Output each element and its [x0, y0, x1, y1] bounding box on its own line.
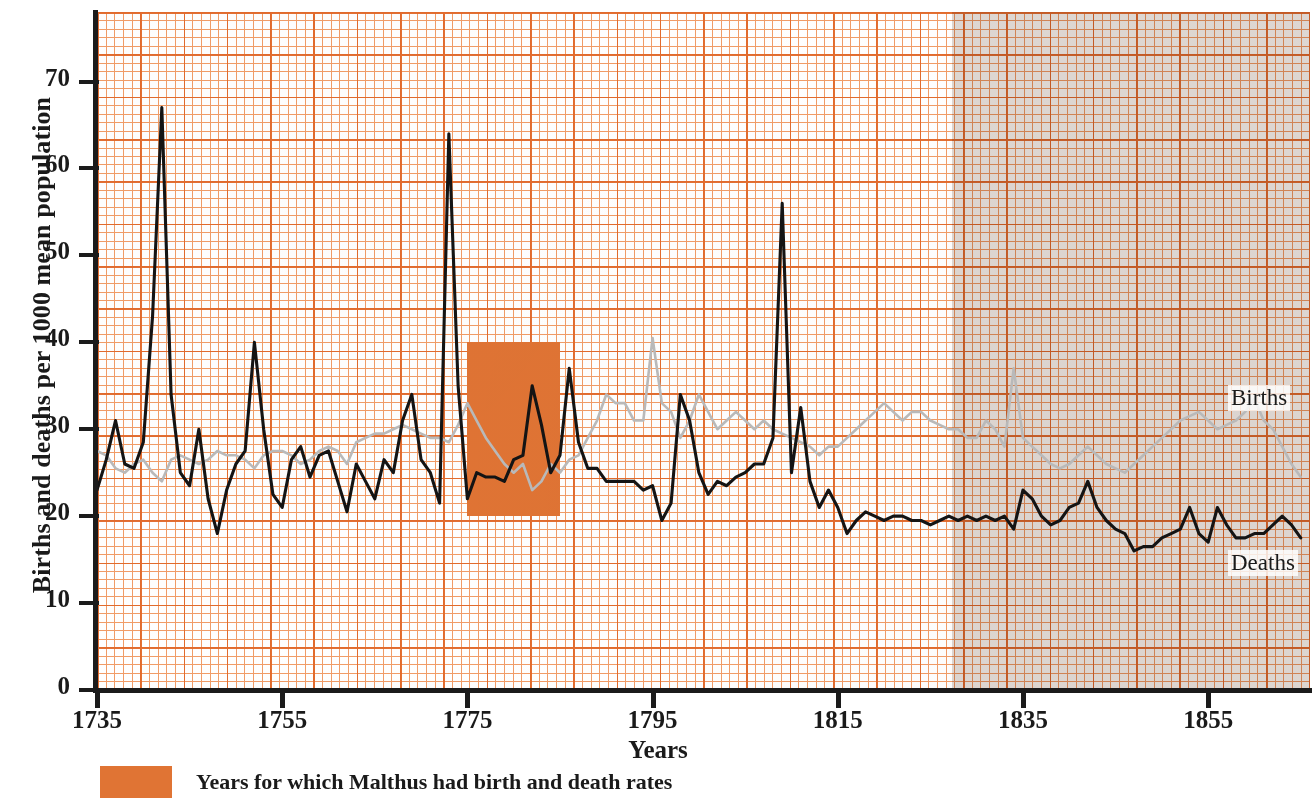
y-tick-20: [79, 514, 99, 518]
y-tick-label-60: 60: [12, 150, 70, 178]
x-tick-label-1815: 1815: [773, 706, 903, 734]
x-tick-label-1835: 1835: [958, 706, 1088, 734]
x-tick-label-1755: 1755: [217, 706, 347, 734]
y-tick-label-30: 30: [12, 411, 70, 439]
plot-area: [97, 12, 1310, 690]
x-tick-label-1795: 1795: [588, 706, 718, 734]
y-tick-label-40: 40: [12, 324, 70, 352]
births-series-label: Births: [1228, 385, 1290, 411]
y-tick-40: [79, 340, 99, 344]
x-tick-label-1775: 1775: [402, 706, 532, 734]
y-tick-label-50: 50: [12, 237, 70, 265]
deaths-series-label: Deaths: [1228, 550, 1298, 576]
y-axis-tick-labels: 010203040506070: [8, 0, 70, 700]
y-tick-label-10: 10: [12, 585, 70, 613]
deaths-line: [97, 108, 1301, 551]
y-tick-label-70: 70: [12, 64, 70, 92]
legend-color-swatch: [100, 766, 172, 798]
series-container: [97, 12, 1310, 690]
y-axis-line: [93, 10, 98, 692]
y-tick-label-20: 20: [12, 498, 70, 526]
x-tick-label-1855: 1855: [1143, 706, 1273, 734]
legend-label: Years for which Malthus had birth and de…: [196, 769, 672, 795]
x-axis-title: Years: [0, 736, 1316, 764]
y-tick-50: [79, 253, 99, 257]
chart-root: Births and deaths per 1000 mean populati…: [0, 0, 1316, 807]
y-tick-70: [79, 80, 99, 84]
legend: Years for which Malthus had birth and de…: [100, 766, 672, 798]
y-tick-60: [79, 166, 99, 170]
x-axis-line: [93, 688, 1312, 693]
x-tick-label-1735: 1735: [32, 706, 162, 734]
y-tick-label-0: 0: [12, 672, 70, 700]
y-tick-30: [79, 427, 99, 431]
y-tick-10: [79, 601, 99, 605]
